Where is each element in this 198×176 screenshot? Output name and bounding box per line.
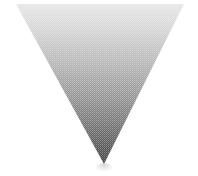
image-canvas: Inverted triangle with vertical grayscal… bbox=[0, 0, 198, 176]
apex-shadow bbox=[95, 163, 113, 174]
triangle-figure-svg bbox=[0, 0, 198, 176]
